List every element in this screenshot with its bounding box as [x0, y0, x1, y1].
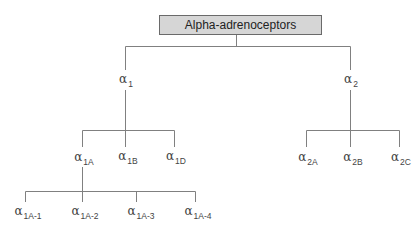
node-subscript: 2: [353, 79, 358, 89]
alpha-symbol: α: [343, 150, 351, 164]
alpha-symbol: α: [71, 204, 79, 218]
node-alpha2: α2: [344, 73, 358, 85]
alpha-symbol: α: [74, 150, 82, 164]
node-alpha2B: α2B: [343, 151, 363, 163]
node-alpha1B: α1B: [118, 150, 138, 162]
root-node-label: Alpha-adrenoceptors: [185, 18, 296, 32]
node-subscript: 1A-4: [194, 211, 212, 221]
alpha-symbol: α: [344, 72, 352, 86]
node-alpha1D: α1D: [166, 150, 186, 162]
node-subscript: 1A-2: [81, 211, 99, 221]
node-subscript: 2C: [400, 157, 411, 167]
alpha-symbol: α: [166, 149, 174, 163]
node-subscript: 1A-3: [137, 211, 155, 221]
node-alpha1: α1: [119, 73, 133, 85]
node-subscript: 1A-1: [24, 211, 42, 221]
node-alpha1A-3: α1A-3: [127, 205, 154, 217]
alpha-symbol: α: [127, 204, 135, 218]
node-subscript: 1: [128, 79, 133, 89]
node-subscript: 2B: [352, 157, 362, 167]
alpha-symbol: α: [119, 72, 127, 86]
node-alpha1A-1: α1A-1: [14, 205, 41, 217]
alpha-symbol: α: [298, 150, 306, 164]
alpha-symbol: α: [118, 149, 126, 163]
node-subscript: 1B: [127, 156, 137, 166]
node-subscript: 2A: [307, 157, 317, 167]
alpha-symbol: α: [184, 204, 192, 218]
node-subscript: 1A: [83, 157, 93, 167]
node-subscript: 1D: [175, 156, 186, 166]
alpha-symbol: α: [391, 150, 399, 164]
root-node-alpha-adrenoceptors: Alpha-adrenoceptors: [159, 15, 322, 35]
node-alpha2C: α2C: [391, 151, 411, 163]
node-alpha2A: α2A: [298, 151, 318, 163]
node-alpha1A-2: α1A-2: [71, 205, 98, 217]
alpha-symbol: α: [14, 204, 22, 218]
node-alpha1A-4: α1A-4: [184, 205, 211, 217]
node-alpha1A: α1A: [74, 151, 94, 163]
